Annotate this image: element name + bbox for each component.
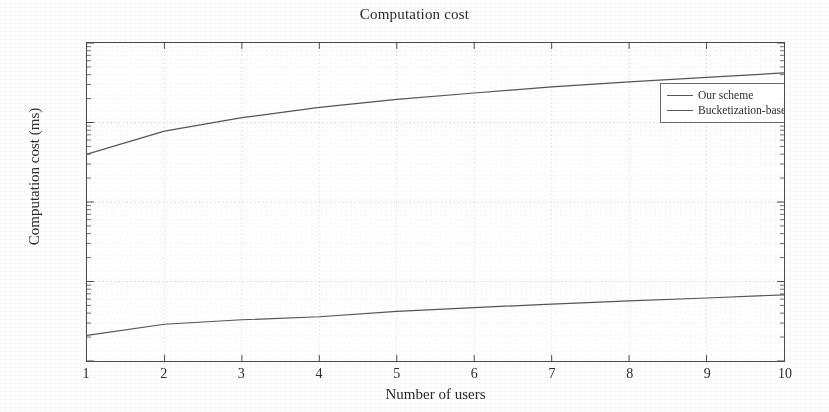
- x-tick-label: 3: [221, 366, 261, 382]
- x-tick-label: 7: [532, 366, 572, 382]
- y-axis-label: Computation cost (ms): [26, 27, 43, 327]
- legend-label: Bucketization-based scheme: [698, 104, 785, 116]
- x-axis-label: Number of users: [86, 386, 785, 403]
- x-tick-label: 8: [610, 366, 650, 382]
- x-tick-label: 4: [299, 366, 339, 382]
- plot-area: Our scheme Bucketization-based scheme: [86, 42, 785, 362]
- legend: Our scheme Bucketization-based scheme: [660, 83, 785, 123]
- legend-label: Our scheme: [698, 89, 753, 101]
- legend-line-icon: [667, 110, 693, 111]
- x-tick-label: 10: [765, 366, 805, 382]
- x-tick-label: 9: [687, 366, 727, 382]
- legend-item-bucketization-based-scheme: Bucketization-based scheme: [665, 103, 785, 117]
- figure-canvas: Computation cost Computation cost (ms) 1…: [0, 0, 829, 412]
- x-tick-label: 1: [66, 366, 106, 382]
- chart-title: Computation cost: [0, 6, 829, 23]
- x-tick-label: 5: [377, 366, 417, 382]
- x-tick-label: 2: [144, 366, 184, 382]
- x-tick-label: 6: [454, 366, 494, 382]
- legend-item-our-scheme: Our scheme: [665, 88, 785, 102]
- legend-line-icon: [667, 95, 693, 96]
